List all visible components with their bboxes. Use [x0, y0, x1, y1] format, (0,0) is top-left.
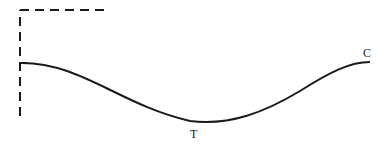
crest-label: C	[363, 46, 371, 60]
wave-curve	[20, 62, 370, 122]
trough-label: T	[190, 127, 198, 141]
wave-diagram: T C	[0, 0, 387, 146]
